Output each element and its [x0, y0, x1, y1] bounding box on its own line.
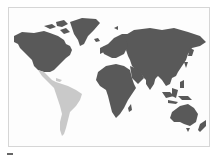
region-north-america[interactable] — [14, 31, 72, 72]
region-australia[interactable] — [170, 104, 198, 126]
world-map — [0, 0, 217, 162]
region-greenland[interactable] — [70, 18, 100, 46]
caption-marker — [7, 153, 13, 155]
highlight-regions — [38, 70, 82, 136]
